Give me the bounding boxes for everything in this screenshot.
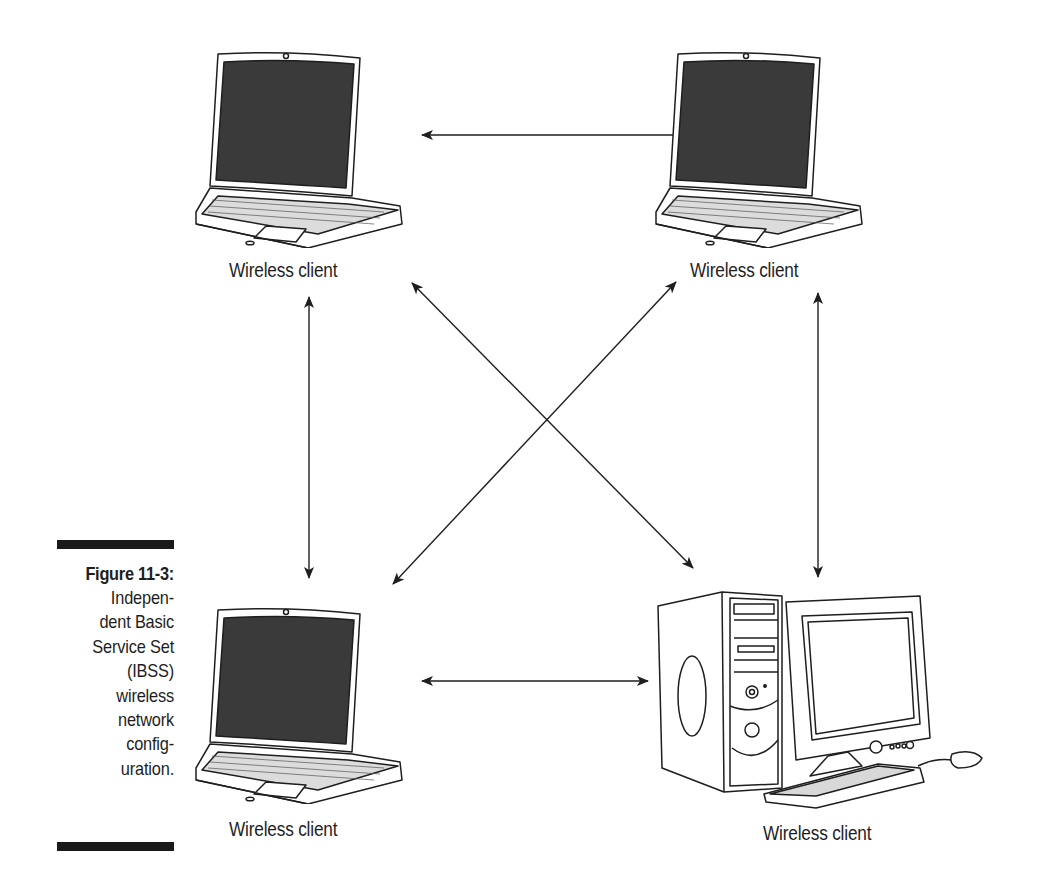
laptop-icon <box>188 604 408 804</box>
node-label-top-right: Wireless client <box>690 259 798 282</box>
node-label-bottom-left: Wireless client <box>229 818 337 841</box>
arrow-top-right-bottom-left <box>393 282 676 584</box>
laptop-icon <box>188 48 408 248</box>
desktop-computer-icon <box>652 588 992 818</box>
node-label-bottom-right: Wireless client <box>763 822 871 845</box>
laptop-icon <box>648 48 868 248</box>
figure-canvas: Figure 11-3: Indepen- dent Basic Service… <box>0 0 1040 885</box>
node-label-top-left: Wireless client <box>229 259 337 282</box>
arrow-top-left-bottom-right <box>412 283 693 568</box>
